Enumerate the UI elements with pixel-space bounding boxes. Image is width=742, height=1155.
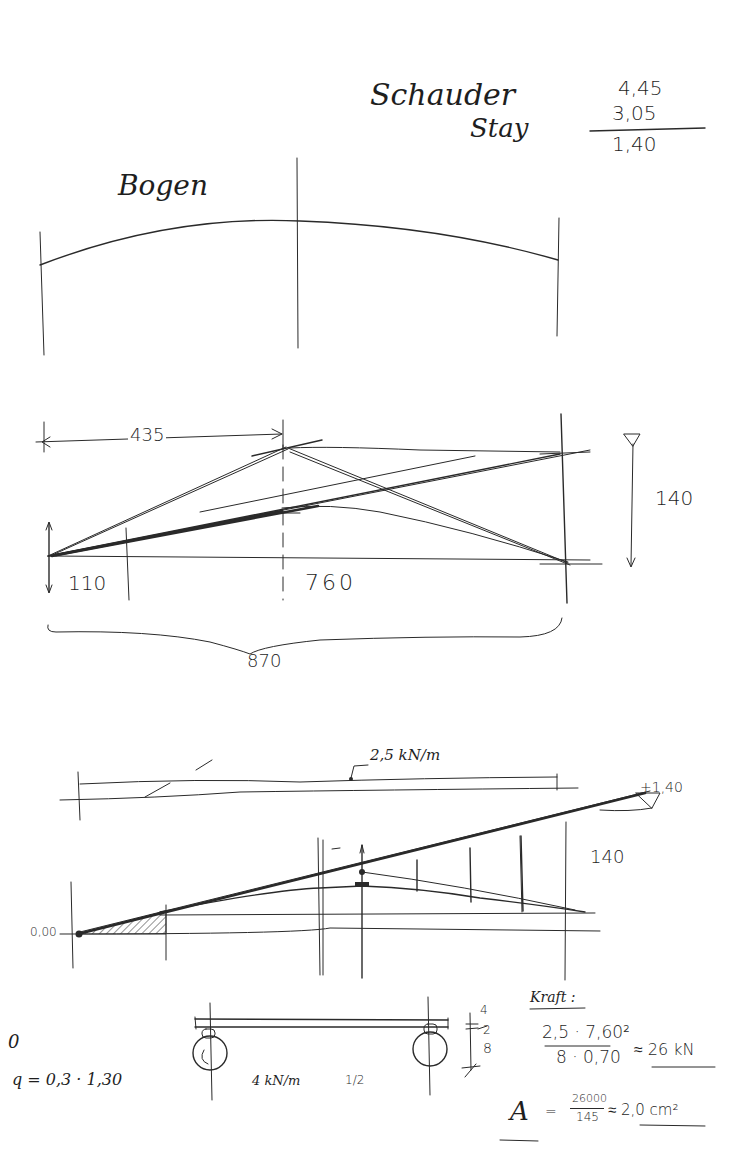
arch-center-line: [297, 158, 298, 348]
arch-curve: [40, 220, 558, 265]
level-left: 0,00: [30, 926, 57, 938]
dim-small-bot: 8: [483, 1041, 492, 1055]
arch-label: Bogen: [118, 172, 208, 200]
area-fraction-bar: [570, 1108, 604, 1109]
dim-140-line: [631, 444, 633, 566]
force-result: ≈ 26 kN: [634, 1042, 695, 1058]
stay-geometry: [36, 414, 640, 654]
area-label: A: [510, 1098, 529, 1124]
hatched-wedge: [78, 911, 166, 934]
load-band-bottom: [60, 788, 578, 800]
calc-result: 1,40: [612, 134, 657, 154]
level-triangle-icon: [624, 434, 640, 446]
area-numerator: 26000: [572, 1093, 607, 1104]
sketch-linework: [0, 0, 742, 1155]
area-result: ≈ 2,0 cm²: [608, 1103, 679, 1118]
left-mark: 0: [8, 1033, 19, 1051]
arch-right-support: [557, 218, 559, 336]
cross-section-load: 4 kN/m: [252, 1074, 300, 1087]
dim-870: 870: [247, 652, 281, 670]
area-denominator: 145: [576, 1111, 599, 1123]
base-line: [48, 556, 590, 560]
dim-small-top: 4: [480, 1004, 488, 1016]
title-line-1: Schauder: [370, 80, 515, 110]
calc-value-a: 4,45: [618, 78, 663, 98]
load-leader: [351, 765, 368, 778]
right-tube: [413, 1032, 447, 1066]
dim-small-mid: 2: [483, 1024, 491, 1036]
sketch-sheet: Schauder Stay 4,45 3,05 1,40 Bogen 435 1…: [0, 0, 742, 1155]
dim-870-brace: [48, 618, 562, 654]
right-support: [561, 414, 567, 603]
force-heading: Kraft :: [530, 990, 575, 1004]
left-tube: [193, 1036, 227, 1070]
q-formula: q = 0,3 · 1,30: [12, 1072, 122, 1088]
dim-760: 760: [305, 572, 356, 594]
dim-110: 110: [68, 573, 106, 593]
cross-section: [193, 997, 715, 1141]
calc-value-b: 3,05: [612, 103, 657, 123]
arch-left-support: [40, 232, 44, 355]
force-numerator: 2,5 · 7,60²: [542, 1024, 630, 1041]
profile-elevation: [60, 760, 660, 980]
left-110-line: [126, 528, 129, 600]
half-label: 1/2: [345, 1074, 364, 1086]
load-band-top: [80, 777, 557, 784]
level-right: +1,40: [640, 780, 683, 794]
area-equals: =: [545, 1104, 557, 1118]
dim-140-right: 140: [590, 848, 624, 866]
force-denominator: 8 · 0,70: [556, 1049, 621, 1066]
deck-slab-top: [195, 1019, 448, 1020]
dim-140: 140: [655, 488, 693, 508]
dim-435: 435: [128, 426, 166, 444]
load-label: 2,5 kN/m: [370, 748, 440, 763]
title-line-2: Stay: [470, 115, 528, 141]
calc-rule: [590, 128, 705, 131]
